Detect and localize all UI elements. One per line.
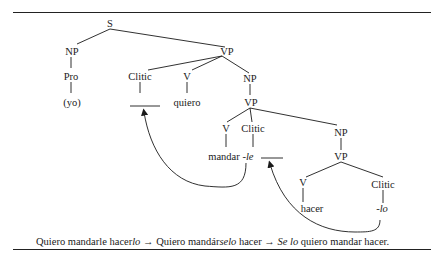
node-Pro: Pro xyxy=(64,71,79,82)
node-NP: NP xyxy=(334,127,348,138)
caption-text: Quiero mandarle hacer xyxy=(36,236,132,247)
node-Clitic: Clitic xyxy=(128,71,152,82)
node-V: V xyxy=(299,177,307,188)
node-Clitic: Clitic xyxy=(371,179,395,190)
node-VP: VP xyxy=(334,151,348,162)
leaf-quiero: quiero xyxy=(174,97,201,108)
arrow-glyph: → xyxy=(262,236,278,247)
node-V: V xyxy=(183,71,191,82)
caption-text: Quiero mandár xyxy=(156,236,219,247)
node-Clitic: Clitic xyxy=(241,123,265,134)
arrow-glyph: → xyxy=(140,236,156,247)
caption-text: hacer xyxy=(236,236,261,247)
caption-text-italic: selo xyxy=(219,236,236,247)
tree-labels: S NP Pro (yo) VP Clitic V quiero NP VP V… xyxy=(63,18,395,214)
derivation-caption: Quiero mandarle hacerlo → Quiero mandárs… xyxy=(36,236,389,247)
caption-text: quiero mandar hacer. xyxy=(298,236,389,247)
node-NP: NP xyxy=(243,73,257,84)
node-VP: VP xyxy=(244,97,258,108)
caption-text-italic: Se lo xyxy=(277,236,298,247)
leaf-lo: -lo xyxy=(376,203,388,214)
node-V: V xyxy=(222,123,230,134)
node-VP: VP xyxy=(220,46,234,57)
node-S: S xyxy=(107,18,113,29)
syntax-tree: S NP Pro (yo) VP Clitic V quiero NP VP V… xyxy=(0,0,444,258)
leaf-le: -le xyxy=(242,151,253,162)
movement-arrow-le xyxy=(144,112,246,187)
leaf-mandar: mandar xyxy=(208,151,240,162)
node-NP: NP xyxy=(65,46,79,57)
movement-arrow-lo xyxy=(270,164,380,232)
leaf-hacer: hacer xyxy=(301,203,324,214)
leaf-yo: (yo) xyxy=(63,97,81,109)
bottom-rule xyxy=(13,249,431,250)
